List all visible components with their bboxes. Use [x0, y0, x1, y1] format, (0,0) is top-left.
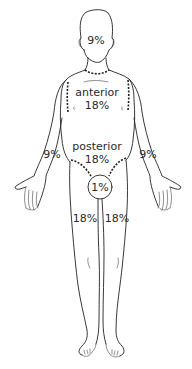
left-nipple [74, 107, 75, 109]
left-foot [82, 344, 96, 356]
left-knee-detail [88, 258, 90, 268]
right-hand [158, 187, 172, 210]
right-leg-percent-label: 18% [105, 212, 129, 225]
left-arm-percent-label: 9% [43, 148, 60, 161]
left-arm-outer [15, 80, 66, 189]
neck-left [85, 58, 88, 70]
perineum-percent-label: 1% [91, 181, 108, 194]
chest-line [84, 81, 108, 83]
right-arm-percent-label: 9% [139, 148, 156, 161]
neck-right [106, 58, 109, 70]
neck-dashed-boundary [85, 70, 109, 74]
posterior-percent-label: 18% [85, 153, 109, 166]
right-groin-dashed-boundary [109, 158, 126, 176]
left-hand [25, 187, 39, 210]
right-foot [106, 344, 120, 357]
left-leg-percent-label: 18% [73, 212, 97, 225]
anterior-percent-label: 18% [85, 99, 109, 112]
posterior-name-label: posterior [72, 140, 122, 153]
right-knee-detail [117, 258, 118, 268]
right-armpit-dashed-boundary [128, 80, 129, 110]
left-leg-outer [70, 162, 88, 355]
left-armpit-dashed-boundary [67, 82, 68, 112]
anterior-name-label: anterior [75, 86, 119, 99]
rule-of-nines-figure: 9% anterior 18% posterior 18% 9% 9% 1% 1… [0, 0, 192, 369]
head-percent-label: 9% [87, 34, 104, 47]
